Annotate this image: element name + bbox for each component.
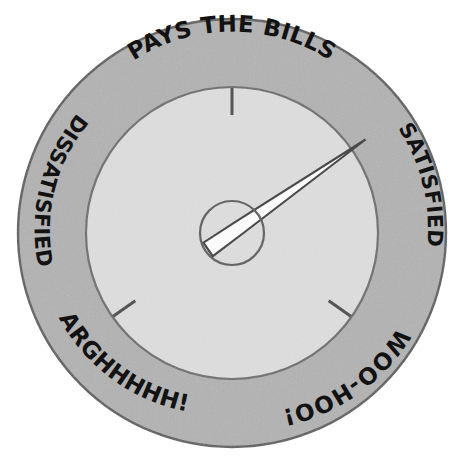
gauge-canvas: PAYS THE BILLS SATISFIED WOO-HOO! DISSAT… bbox=[0, 0, 464, 474]
gauge-illustration: PAYS THE BILLS SATISFIED WOO-HOO! DISSAT… bbox=[0, 0, 464, 474]
